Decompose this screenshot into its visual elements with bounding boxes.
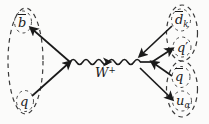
- label-q-prime: q′: [177, 41, 188, 54]
- label-spectator-quark: q: [20, 95, 28, 108]
- label-d-antiquark: dk: [175, 13, 189, 28]
- w-boson-charge: +: [108, 65, 115, 75]
- b-antiquark-glyph: b: [18, 16, 26, 29]
- group-ellipses: [8, 5, 198, 117]
- spectator-quark-glyph: q: [20, 94, 28, 109]
- u-quark-index: α: [184, 100, 190, 110]
- spectator-quark-line: [32, 62, 70, 96]
- q-prime-line: [152, 49, 172, 62]
- d-antiquark-glyph: d: [175, 13, 183, 26]
- label-b-antiquark: b: [18, 16, 26, 29]
- q-prime-mark: ′: [185, 40, 188, 55]
- d-antiquark-index: k: [183, 19, 188, 29]
- q-antiquark-glyph: q: [175, 70, 183, 83]
- b-antiquark-line: [31, 28, 70, 62]
- label-halos: [15, 9, 192, 112]
- label-u-quark: uα: [176, 94, 190, 109]
- q-antiquark-line: [152, 62, 172, 76]
- w-boson-glyph: W: [95, 65, 108, 80]
- label-q-antiquark: q: [175, 70, 183, 83]
- label-w-boson: W+: [95, 66, 116, 79]
- feynman-diagram: b q W+ dk q′ q uα: [0, 0, 209, 124]
